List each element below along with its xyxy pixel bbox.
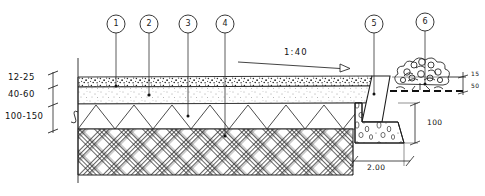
dimension-footing-width: 2.00 bbox=[367, 164, 385, 172]
callout-label-4[interactable]: 4 bbox=[217, 16, 233, 32]
drawing-canvas: 1 2 3 4 5 6 12-25 40-60 100-150 1:40 15 … bbox=[0, 0, 485, 196]
break-line-symbol bbox=[71, 111, 78, 123]
callout-label-2[interactable]: 2 bbox=[141, 16, 157, 32]
dimension-kerb-depth: 50 bbox=[471, 83, 479, 89]
thickness-label-wearing: 12-25 bbox=[8, 73, 35, 82]
slope-indicator bbox=[238, 62, 350, 72]
thickness-label-bedding: 40-60 bbox=[8, 90, 35, 99]
shrub-planting bbox=[395, 58, 450, 90]
callout-label-3[interactable]: 3 bbox=[180, 16, 196, 32]
slope-label: 1:40 bbox=[284, 48, 308, 57]
dimension-footing-depth: 100 bbox=[427, 119, 443, 127]
left-dimension-chain bbox=[48, 71, 58, 133]
thickness-label-base: 100-150 bbox=[5, 112, 43, 121]
layer-compacted-base bbox=[78, 129, 353, 175]
callout-label-5[interactable]: 5 bbox=[366, 16, 382, 32]
dimension-kerb-upstand: 15 bbox=[471, 71, 479, 77]
section-drawing bbox=[0, 0, 485, 196]
callout-label-1[interactable]: 1 bbox=[108, 16, 124, 32]
callout-label-6[interactable]: 6 bbox=[417, 14, 433, 30]
right-dimension-chain bbox=[440, 72, 468, 95]
